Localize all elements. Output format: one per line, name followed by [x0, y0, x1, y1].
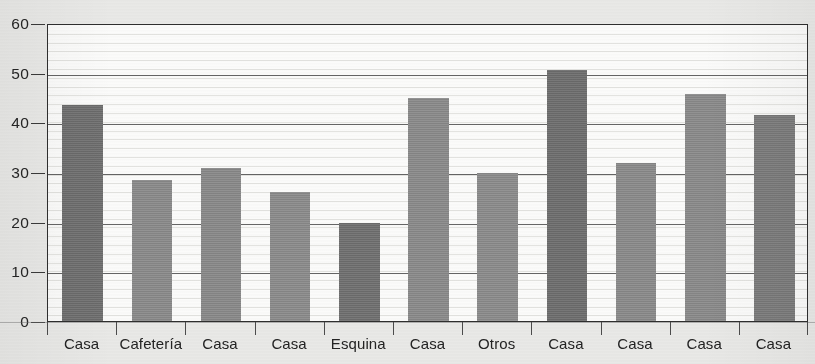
x-tick-mark: [255, 322, 256, 335]
bar-texture: [339, 223, 380, 321]
y-tick-label: 20: [11, 214, 29, 232]
x-tick-label: Casa: [756, 335, 791, 352]
y-tick-mark: [31, 74, 45, 75]
x-tick-mark: [601, 322, 602, 335]
bar: [270, 192, 311, 321]
bar-texture: [62, 105, 103, 321]
paper-scanline: [48, 78, 807, 79]
bar: [754, 115, 795, 321]
bar-texture: [201, 168, 242, 321]
bar-texture: [132, 180, 173, 321]
bar-texture: [685, 94, 726, 321]
y-tick-label: 50: [11, 65, 29, 83]
paper-scanline: [48, 34, 807, 35]
bar: [616, 163, 657, 321]
y-tick-label: 10: [11, 263, 29, 281]
x-tick-label: Cafetería: [119, 335, 182, 352]
y-tick-mark: [31, 173, 45, 174]
paper-scanline: [48, 51, 807, 52]
y-tick-mark: [31, 24, 45, 25]
x-tick-label: Otros: [478, 335, 515, 352]
y-tick-mark: [31, 223, 45, 224]
x-axis: CasaCafeteríaCasaCasaEsquinaCasaOtrosCas…: [47, 335, 808, 364]
x-tick-label: Esquina: [331, 335, 386, 352]
bar-texture: [754, 115, 795, 321]
x-tick-label: Casa: [617, 335, 652, 352]
bar-texture: [408, 98, 449, 322]
bar-texture: [477, 173, 518, 321]
x-tick-mark: [462, 322, 463, 335]
x-tick-label: Casa: [410, 335, 445, 352]
x-tick-mark: [116, 322, 117, 335]
paper-scanline: [48, 60, 807, 61]
bar-texture: [616, 163, 657, 321]
chart-title-cropped: [0, 0, 815, 7]
paper-scanline: [48, 69, 807, 70]
y-tick-label: 30: [11, 164, 29, 182]
bar-texture: [547, 70, 588, 321]
paper-scanline: [48, 43, 807, 44]
plot-inner: [48, 25, 807, 321]
x-tick-mark: [739, 322, 740, 335]
plot-area: [47, 24, 808, 322]
gridline: [48, 75, 807, 76]
bar: [201, 168, 242, 321]
bar-chart: 0102030405060 CasaCafeteríaCasaCasaEsqui…: [0, 0, 815, 364]
bar: [477, 173, 518, 321]
y-tick-label: 60: [11, 15, 29, 33]
y-tick-label: 40: [11, 114, 29, 132]
x-tick-mark: [807, 322, 808, 335]
x-tick-label: Casa: [202, 335, 237, 352]
y-axis: 0102030405060: [0, 0, 47, 364]
bar-texture: [270, 192, 311, 321]
y-tick-mark: [31, 272, 45, 273]
x-tick-label: Casa: [271, 335, 306, 352]
x-tick-label: Casa: [548, 335, 583, 352]
bar: [408, 98, 449, 322]
x-tick-label: Casa: [686, 335, 721, 352]
bar: [62, 105, 103, 321]
x-tick-label: Casa: [64, 335, 99, 352]
bar: [339, 223, 380, 321]
x-tick-mark: [185, 322, 186, 335]
x-tick-mark: [670, 322, 671, 335]
x-tick-mark: [531, 322, 532, 335]
paper-scanline: [48, 87, 807, 88]
x-tick-mark: [393, 322, 394, 335]
bar: [132, 180, 173, 321]
y-tick-mark: [31, 123, 45, 124]
bar: [685, 94, 726, 321]
x-tick-mark: [47, 322, 48, 335]
x-tick-mark: [324, 322, 325, 335]
bar: [547, 70, 588, 321]
